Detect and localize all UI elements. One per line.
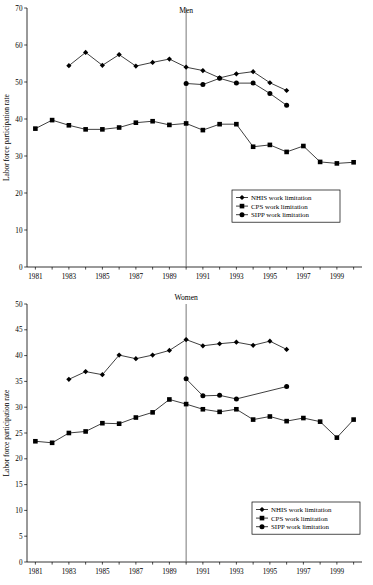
data-point-cps [318, 160, 323, 165]
data-point-cps [67, 431, 72, 436]
x-tick-label: 1981 [28, 568, 43, 576]
data-point-sipp [217, 76, 222, 81]
y-axis-title: Labor force participation rate [2, 93, 11, 181]
data-point-nhis [234, 71, 239, 76]
x-tick-label: 1999 [330, 568, 345, 576]
data-point-nhis [284, 347, 289, 352]
data-point-cps [184, 121, 189, 126]
women-chart-svg: 0510152025303540455019811983198519871989… [0, 290, 373, 585]
data-point-cps [134, 120, 139, 125]
y-tick-label: 35 [15, 378, 23, 386]
data-point-nhis [83, 369, 88, 374]
y-tick-label: 0 [19, 559, 23, 567]
x-tick-label: 1985 [95, 568, 110, 576]
x-tick-label: 1981 [28, 273, 43, 281]
x-tick-label: 1983 [62, 273, 77, 281]
legend-label: SIPP work limitation [251, 211, 309, 218]
data-point-cps [50, 441, 55, 446]
data-point-cps [351, 160, 356, 165]
y-tick-label: 30 [15, 153, 23, 161]
data-point-cps [335, 435, 340, 440]
data-point-nhis [284, 88, 289, 93]
data-point-cps [100, 127, 105, 132]
data-point-cps [351, 417, 356, 422]
legend-label: CPS work limitation [251, 203, 308, 210]
y-tick-label: 40 [15, 352, 23, 360]
y-tick-label: 25 [15, 430, 23, 438]
x-tick-label: 1991 [196, 568, 211, 576]
data-point-cps [150, 119, 155, 124]
y-tick-label: 50 [15, 301, 23, 309]
data-point-cps [100, 421, 105, 426]
data-point-cps [50, 118, 55, 123]
y-tick-label: 10 [15, 227, 23, 235]
data-point-sipp [184, 376, 189, 381]
data-point-nhis [267, 339, 272, 344]
data-point-cps [167, 397, 172, 402]
panel-title: Men [179, 6, 193, 15]
legend-label: NHIS work limitation [251, 194, 312, 201]
x-tick-label: 1995 [263, 273, 278, 281]
legend-marker-sipp [240, 212, 245, 217]
data-point-nhis [167, 348, 172, 353]
y-tick-label: 40 [15, 116, 23, 124]
x-tick-label: 1993 [229, 568, 244, 576]
x-tick-label: 1995 [263, 568, 278, 576]
data-point-cps [117, 421, 122, 426]
data-point-sipp [200, 82, 205, 87]
data-point-cps [134, 415, 139, 420]
data-point-cps [301, 144, 306, 149]
y-tick-label: 50 [15, 79, 23, 87]
y-tick-label: 45 [15, 326, 23, 334]
data-point-nhis [150, 60, 155, 65]
data-point-nhis [184, 337, 189, 342]
data-point-nhis [184, 65, 189, 70]
data-point-cps [83, 127, 88, 132]
x-tick-label: 1997 [296, 273, 311, 281]
data-point-cps [83, 429, 88, 434]
men-chart-svg: 0102030405060701981198319851987198919911… [0, 0, 373, 290]
x-tick-label: 1993 [229, 273, 244, 281]
data-point-cps [167, 123, 172, 128]
data-point-sipp [251, 81, 256, 86]
data-point-cps [201, 128, 206, 133]
x-tick-label: 1989 [162, 273, 177, 281]
x-tick-label: 1989 [162, 568, 177, 576]
data-point-cps [335, 161, 340, 166]
data-point-nhis [133, 63, 138, 68]
data-point-sipp [284, 103, 289, 108]
figure-page: 0102030405060701981198319851987198919911… [0, 0, 373, 585]
data-point-nhis [217, 341, 222, 346]
data-point-nhis [117, 52, 122, 57]
data-point-cps [234, 122, 239, 127]
data-point-cps [33, 439, 38, 444]
data-point-sipp [284, 384, 289, 389]
y-tick-label: 30 [15, 404, 23, 412]
data-point-cps [301, 416, 306, 421]
data-point-nhis [251, 69, 256, 74]
data-point-sipp [184, 81, 189, 86]
y-tick-label: 15 [15, 481, 23, 489]
legend-label: SIPP work limitation [271, 523, 329, 530]
x-tick-label: 1999 [330, 273, 345, 281]
data-point-cps [217, 122, 222, 127]
data-point-cps [150, 410, 155, 415]
chart-panel-men: 0102030405060701981198319851987198919911… [0, 0, 373, 290]
y-tick-label: 70 [15, 5, 23, 13]
y-tick-label: 0 [19, 264, 23, 272]
data-point-cps [217, 410, 222, 415]
data-point-nhis [251, 343, 256, 348]
data-point-sipp [267, 91, 272, 96]
data-point-sipp [234, 81, 239, 86]
y-tick-label: 60 [15, 42, 23, 50]
legend-label: NHIS work limitation [271, 506, 332, 513]
data-point-sipp [217, 393, 222, 398]
data-point-nhis [66, 377, 71, 382]
x-tick-label: 1987 [129, 273, 144, 281]
data-point-cps [201, 407, 206, 412]
x-tick-label: 1991 [196, 273, 211, 281]
y-tick-label: 10 [15, 507, 23, 515]
data-point-sipp [234, 396, 239, 401]
legend-marker-cps [260, 516, 265, 521]
y-tick-label: 20 [15, 455, 23, 463]
